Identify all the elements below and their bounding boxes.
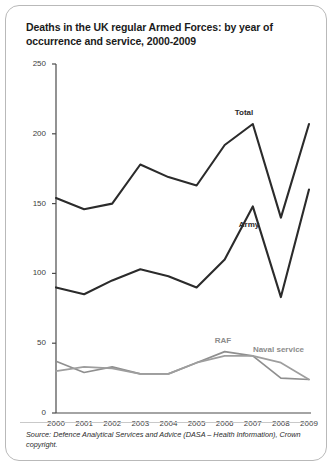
- series-label-total: Total: [235, 108, 254, 117]
- y-tick-100: 100: [20, 268, 46, 277]
- source-note: Source: Defence Analytical Services and …: [26, 430, 316, 450]
- series-line-raf: [56, 352, 309, 380]
- y-tick-200: 200: [20, 129, 46, 138]
- series-label-naval: Naval service: [253, 345, 304, 354]
- y-tick-50: 50: [20, 338, 46, 347]
- y-tick-150: 150: [20, 199, 46, 208]
- y-tick-0: 0: [20, 408, 46, 417]
- chart-plot-area: number of deaths 050100150200250 2000200…: [6, 6, 328, 462]
- series-label-raf: RAF: [215, 336, 231, 345]
- footer-divider: [20, 422, 314, 423]
- line-chart: [6, 6, 328, 462]
- series-label-army: Army: [239, 220, 259, 229]
- x-tick-2009: 2009: [292, 419, 326, 428]
- series-line-naval-service: [56, 356, 309, 380]
- chart-card: Deaths in the UK regular Armed Forces: b…: [5, 5, 327, 461]
- series-line-total: [56, 124, 309, 218]
- y-tick-250: 250: [20, 59, 46, 68]
- series-line-army: [56, 190, 309, 298]
